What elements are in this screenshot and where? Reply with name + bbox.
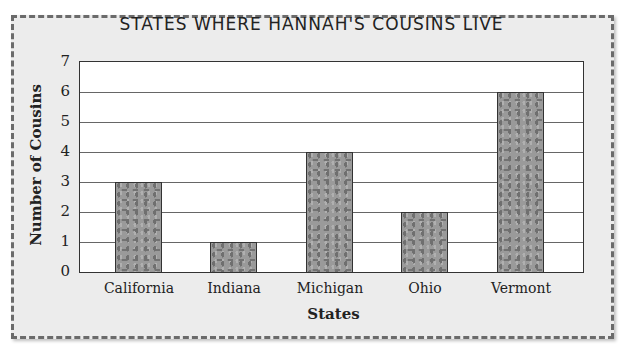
y-tick-label: 6 bbox=[50, 82, 70, 100]
y-tick-label: 2 bbox=[50, 202, 70, 220]
x-axis-label: States bbox=[0, 305, 623, 323]
y-tick-label: 1 bbox=[50, 232, 70, 250]
x-tick-label: California bbox=[89, 280, 189, 296]
y-tick-label: 3 bbox=[50, 172, 70, 190]
bar-michigan bbox=[306, 152, 353, 272]
y-tick-label: 5 bbox=[50, 112, 70, 130]
y-tick-label: 4 bbox=[50, 142, 70, 160]
x-tick-label: Ohio bbox=[375, 280, 475, 296]
bar-california bbox=[115, 182, 162, 272]
x-tick-label: Michigan bbox=[280, 280, 380, 296]
x-tick-label: Indiana bbox=[184, 280, 284, 296]
bar-vermont bbox=[497, 92, 544, 272]
y-tick-label: 7 bbox=[50, 52, 70, 70]
y-axis-label: Number of Cousins bbox=[27, 84, 45, 246]
bar-indiana bbox=[210, 242, 257, 272]
plot-area bbox=[79, 61, 584, 273]
y-tick-label: 0 bbox=[50, 262, 70, 280]
chart-title: STATES WHERE HANNAH'S COUSINS LIVE bbox=[0, 14, 623, 34]
bar-ohio bbox=[401, 212, 448, 272]
x-tick-label: Vermont bbox=[471, 280, 571, 296]
